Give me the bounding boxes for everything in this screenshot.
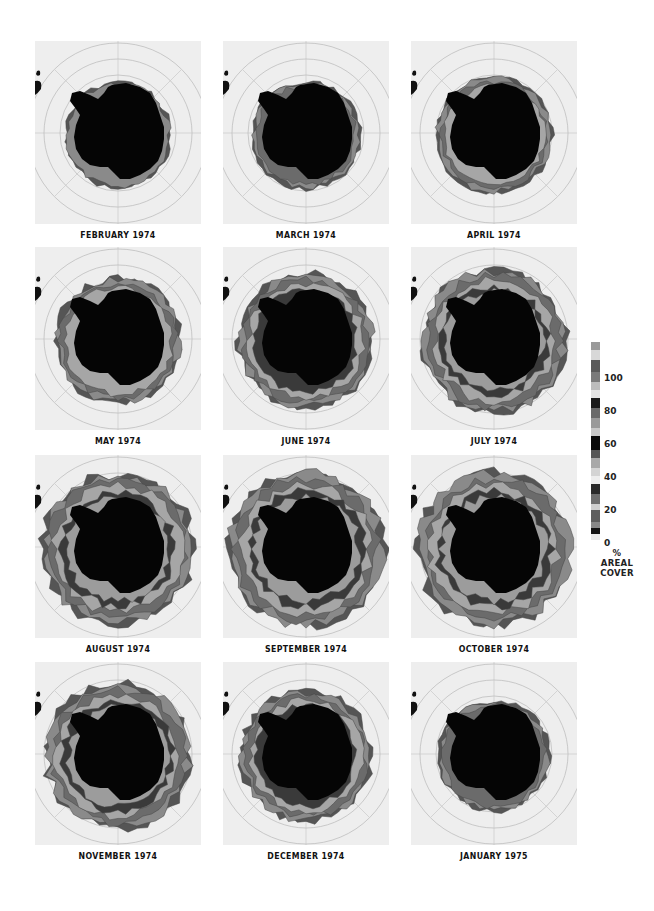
legend-colorbar [591, 342, 600, 540]
map-panel [35, 455, 201, 638]
legend-tick-80: 80 [604, 406, 617, 416]
legend-tick-20: 20 [604, 505, 617, 515]
map-panel [411, 455, 577, 638]
panel-label: APRIL 1974 [418, 230, 571, 240]
map-panel [35, 662, 201, 845]
panel-label: NOVEMBER 1974 [42, 851, 195, 861]
polar-map [411, 41, 577, 224]
polar-map [223, 662, 389, 845]
panel-label: JUNE 1974 [230, 436, 383, 446]
map-panel [411, 41, 577, 224]
polar-map [223, 41, 389, 224]
polar-map [35, 455, 201, 638]
panel-label: FEBRUARY 1974 [42, 230, 195, 240]
polar-map [411, 247, 577, 430]
map-panel [223, 247, 389, 430]
map-panel [411, 662, 577, 845]
panel-label: OCTOBER 1974 [418, 644, 571, 654]
map-panel [223, 41, 389, 224]
legend-tick-40: 40 [604, 472, 617, 482]
legend-tick-60: 60 [604, 439, 617, 449]
legend-unit: % [587, 548, 647, 558]
map-panel [411, 247, 577, 430]
map-panel [223, 455, 389, 638]
panel-label: JULY 1974 [418, 436, 571, 446]
legend-tick-100: 100 [604, 373, 623, 383]
polar-map [223, 247, 389, 430]
panel-label: JANUARY 1975 [418, 851, 571, 861]
panel-label: MARCH 1974 [230, 230, 383, 240]
legend-caption-line1: AREAL [587, 558, 647, 568]
panel-label: SEPTEMBER 1974 [230, 644, 383, 654]
panel-label: DECEMBER 1974 [230, 851, 383, 861]
panel-label: AUGUST 1974 [42, 644, 195, 654]
polar-map [35, 41, 201, 224]
polar-map [35, 247, 201, 430]
legend-tick-0: 0 [604, 538, 610, 548]
map-panel [223, 662, 389, 845]
polar-map [35, 662, 201, 845]
legend-caption: % AREAL COVER [587, 548, 647, 578]
legend-caption-line2: COVER [587, 568, 647, 578]
map-panel [35, 41, 201, 224]
map-panel [35, 247, 201, 430]
panel-label: MAY 1974 [42, 436, 195, 446]
polar-map [411, 455, 577, 638]
polar-map [223, 455, 389, 638]
polar-map [411, 662, 577, 845]
